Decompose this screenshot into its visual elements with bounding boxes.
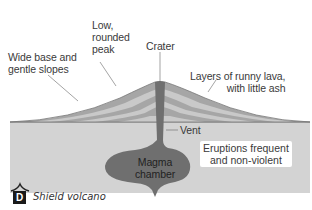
label-layers: Layers of runny lava, with little ash bbox=[190, 70, 285, 94]
label-line: Wide base and bbox=[8, 51, 77, 63]
label-line: Magma bbox=[128, 156, 182, 168]
label-line: chamber bbox=[128, 168, 182, 180]
label-line: Eruptions frequent bbox=[203, 142, 289, 154]
label-crater: Crater bbox=[146, 40, 175, 52]
label-line: Low, bbox=[92, 19, 130, 31]
label-low-peak: Low, rounded peak bbox=[92, 19, 130, 55]
label-wide-base: Wide base and gentle slopes bbox=[8, 51, 77, 75]
label-line: peak bbox=[92, 43, 130, 55]
label-line: with little ash bbox=[190, 82, 285, 94]
label-line: and non-violent bbox=[203, 154, 289, 166]
label-vent: Vent bbox=[180, 124, 201, 136]
label-eruptions: Eruptions frequent and non-violent bbox=[200, 141, 292, 167]
label-line: rounded bbox=[92, 31, 130, 43]
label-magma-chamber: Magma chamber bbox=[128, 156, 182, 180]
label-line: gentle slopes bbox=[8, 63, 77, 75]
figure-badge: D bbox=[13, 191, 26, 204]
label-line: Layers of runny lava, bbox=[190, 70, 285, 82]
figure-caption: Shield volcano bbox=[33, 191, 106, 202]
